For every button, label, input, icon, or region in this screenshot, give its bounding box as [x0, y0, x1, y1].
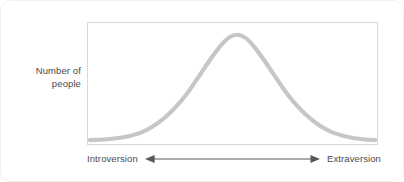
bell-curve-path: [90, 35, 375, 140]
plot-area: [87, 22, 378, 145]
axis-label-introversion: Introversion: [87, 153, 138, 165]
figure-card: Number of people Introversion Extraversi…: [0, 0, 404, 182]
x-axis-scale: Introversion Extraversion: [87, 151, 381, 167]
double-arrow-svg: [145, 153, 320, 165]
double-arrow-icon: [145, 153, 320, 165]
bell-curve-svg: [88, 23, 377, 144]
axis-label-extraversion: Extraversion: [327, 153, 381, 165]
y-axis-label: Number of people: [7, 65, 81, 90]
